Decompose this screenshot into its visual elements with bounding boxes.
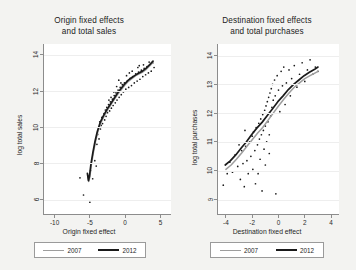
- data-point: [268, 96, 270, 98]
- y-axis-tick-mark: [40, 91, 44, 92]
- data-point: [102, 123, 104, 125]
- legend-origin: 2007 2012: [34, 242, 146, 258]
- data-point: [242, 163, 244, 165]
- gridline: [218, 171, 339, 172]
- data-point: [89, 201, 91, 203]
- y-axis-tick-label: 12: [32, 87, 39, 94]
- x-axis-tick-label: 2: [303, 219, 307, 226]
- data-point: [145, 74, 147, 76]
- data-point: [301, 62, 303, 64]
- y-axis-tick-mark: [214, 141, 218, 142]
- x-axis-tick-mark: [278, 214, 279, 218]
- panel-destination-title-line1: Destination fixed effects: [178, 16, 356, 27]
- legend-label-2012: 2012: [300, 247, 314, 254]
- data-point: [118, 97, 120, 99]
- x-axis-tick-mark: [304, 214, 305, 218]
- data-point: [260, 118, 262, 120]
- data-point: [139, 78, 141, 80]
- data-point: [259, 158, 261, 160]
- x-axis-tick-label: -5: [87, 219, 93, 226]
- legend-item-2012[interactable]: 2012: [98, 247, 136, 254]
- y-axis-tick-label: 10: [206, 167, 213, 174]
- gridline: [218, 142, 339, 143]
- data-point: [104, 119, 106, 121]
- data-point: [96, 144, 98, 146]
- x-axis-tick-label: 5: [159, 219, 163, 226]
- y-axis-tick-label: 11: [206, 139, 213, 146]
- y-axis-tick-mark: [214, 113, 218, 114]
- data-point: [265, 105, 267, 107]
- data-point: [244, 130, 246, 132]
- data-point: [79, 177, 81, 179]
- gridline: [44, 91, 171, 92]
- data-point: [148, 61, 150, 63]
- data-point: [268, 134, 270, 136]
- x-axis-tick-label: 0: [123, 219, 127, 226]
- x-axis-tick-mark: [125, 214, 126, 218]
- data-point: [274, 79, 276, 81]
- data-point: [131, 85, 133, 87]
- x-axis-tick-label: 0: [277, 219, 281, 226]
- data-point: [138, 65, 140, 67]
- data-point: [263, 130, 265, 132]
- data-point: [278, 89, 280, 91]
- data-point: [133, 82, 135, 84]
- x-axis-tick-label: -2: [249, 219, 255, 226]
- data-point: [100, 128, 102, 130]
- x-axis-tick-mark: [160, 214, 161, 218]
- data-point: [111, 107, 113, 109]
- data-point: [246, 160, 248, 162]
- x-axis-tick-mark: [54, 214, 55, 218]
- data-point: [307, 69, 309, 71]
- y-axis-tick-mark: [214, 170, 218, 171]
- legend-item-2012[interactable]: 2012: [276, 247, 314, 254]
- legend-line-2007-icon: [43, 250, 64, 251]
- data-point: [258, 122, 260, 124]
- panel-destination-title: Destination fixed effects and total purc…: [178, 16, 356, 37]
- data-point: [263, 148, 265, 150]
- legend-item-2007[interactable]: 2007: [43, 247, 81, 254]
- data-point: [120, 82, 122, 84]
- panel-origin-title: Origin fixed effects and total sales: [0, 16, 178, 37]
- y-axis-tick-label: 9: [208, 198, 215, 202]
- x-axis-tick-label: -10: [50, 219, 59, 226]
- data-point: [296, 86, 298, 88]
- gridline: [218, 84, 339, 85]
- plot-svg-origin: [44, 44, 171, 214]
- legend-line-2012-icon: [276, 249, 297, 251]
- data-point: [257, 173, 259, 175]
- data-point: [143, 64, 145, 66]
- x-axis-tick-mark: [252, 214, 253, 218]
- x-axis-tick-mark: [225, 214, 226, 218]
- data-point: [112, 105, 114, 107]
- data-point: [261, 190, 263, 192]
- data-point: [116, 86, 118, 88]
- data-point: [264, 109, 266, 111]
- legend-item-2007[interactable]: 2007: [220, 247, 258, 254]
- data-point: [240, 179, 242, 181]
- legend-label-2007: 2007: [244, 247, 258, 254]
- panel-destination-xlabel: Destination fixed effect: [178, 228, 356, 235]
- data-point: [304, 81, 306, 83]
- data-point: [226, 173, 228, 175]
- data-point: [275, 193, 277, 195]
- data-point: [261, 134, 263, 136]
- data-point: [299, 73, 301, 75]
- figure-canvas: Origin fixed effects and total sales 681…: [0, 0, 356, 270]
- y-axis-tick-label: 14: [206, 52, 213, 59]
- plot-area-origin: 68101214-10-505: [43, 44, 171, 215]
- panel-destination-ylabel: log total purchases: [191, 110, 198, 165]
- data-point: [238, 144, 240, 146]
- legend-destination: 2007 2012: [210, 242, 324, 258]
- data-point: [136, 80, 138, 82]
- plot-area-destination: 91011121314-4-2024: [217, 44, 339, 215]
- gridline: [44, 200, 171, 201]
- x-axis-tick-label: -4: [223, 219, 229, 226]
- y-axis-tick-label: 12: [206, 110, 213, 117]
- data-point: [293, 65, 295, 67]
- data-point: [128, 87, 130, 89]
- data-point: [250, 156, 252, 158]
- gridline: [218, 56, 339, 57]
- legend-line-2012-icon: [98, 249, 119, 251]
- panel-origin-ylabel: log total sales: [16, 115, 23, 155]
